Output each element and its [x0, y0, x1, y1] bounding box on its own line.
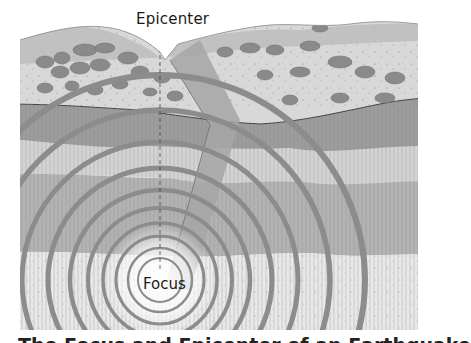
- figure-caption: The Focus and Epicenter of an Earthquake: [18, 334, 471, 343]
- focus-label: Focus: [143, 275, 186, 293]
- epicenter-label: Epicenter: [136, 10, 209, 28]
